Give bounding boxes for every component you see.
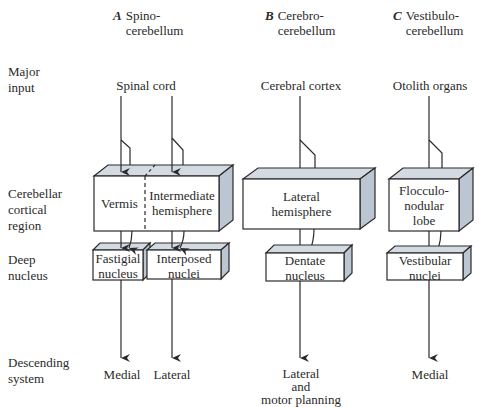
column-header-b: BCerebro-cerebellum <box>265 8 335 38</box>
label-intermediate-hemisphere: Intermediate hemisphere <box>145 188 219 218</box>
input-label-cerebral-cortex: Cerebral cortex <box>261 78 341 94</box>
output-label-lateral-motor-planning: Lateral and motor planning <box>261 367 341 406</box>
box-label-line: nuclei <box>168 266 200 281</box>
column-title-a-line2: cerebellum <box>126 23 184 38</box>
label-fastigial-nucleus: Fastigial nucleus <box>93 251 143 281</box>
row-label-descending-system: Descending system <box>8 355 69 387</box>
arrows-output-a <box>121 279 172 358</box>
box-label-line: Vermis <box>101 196 138 211</box>
label-lateral-hemisphere: Lateral hemisphere <box>243 189 360 219</box>
label-vermis: Vermis <box>94 196 145 211</box>
row-label-line: nucleus <box>8 268 48 283</box>
row-label-line: cortical <box>8 202 47 217</box>
box-label-line: Fastigial <box>96 251 141 266</box>
output-label-medial-a: Medial <box>104 367 141 383</box>
column-header-c: CVestibulo-cerebellum <box>393 8 463 38</box>
box-label-line: lobe <box>413 213 435 228</box>
input-label-otolith-organs: Otolith organs <box>393 78 468 94</box>
input-label-spinal-cord: Spinal cord <box>116 78 176 94</box>
output-label-line: motor planning <box>261 392 341 407</box>
label-vestibular-nuclei: Vestibular nuclei <box>387 253 463 283</box>
column-header-a: ASpino-cerebellum <box>113 8 183 38</box>
box-label-line: hemisphere <box>152 203 212 218</box>
arrows-input-a <box>121 96 183 172</box>
box-label-line: nucleus <box>98 266 138 281</box>
column-title-a-line1: Spino- <box>126 8 161 23</box>
box-label-line: Lateral <box>283 189 320 204</box>
label-dentate-nucleus: Dentate nucleus <box>266 253 344 283</box>
output-label-lateral-a: Lateral <box>154 367 191 383</box>
column-title-c-line2: cerebellum <box>406 23 464 38</box>
box-label-line: hemisphere <box>272 204 332 219</box>
box-label-line: Vestibular <box>399 253 452 268</box>
column-letter-c: C <box>393 8 402 23</box>
box-label-line: Dentate <box>285 253 325 268</box>
column-letter-b: B <box>265 8 274 23</box>
row-label-line: input <box>8 80 35 95</box>
row-label-cortical-region: Cerebellar cortical region <box>8 186 62 234</box>
row-label-line: Descending <box>8 355 69 370</box>
box-label-line: nucleus <box>285 268 325 283</box>
output-label-medial-c: Medial <box>412 367 449 383</box>
arrows-input-c <box>429 96 442 175</box>
row-label-line: Deep <box>8 252 35 267</box>
column-title-c-line1: Vestibulo- <box>406 8 459 23</box>
box-label-line: Flocculo- <box>399 183 449 198</box>
box-label-line: Intermediate <box>149 188 215 203</box>
row-label-line: Cerebellar <box>8 186 62 201</box>
row-label-line: Major <box>8 64 40 79</box>
column-letter-a: A <box>113 8 122 23</box>
column-title-b-line2: cerebellum <box>278 23 336 38</box>
box-label-line: nuclei <box>409 268 441 283</box>
column-title-b-line1: Cerebro- <box>278 8 324 23</box>
row-label-line: region <box>8 218 41 233</box>
row-label-line: system <box>8 371 44 386</box>
label-flocculonodular-lobe: Flocculo- nodular lobe <box>389 183 459 228</box>
label-interposed-nuclei: Interposed nuclei <box>147 251 221 281</box>
box-label-line: Interposed <box>157 251 212 266</box>
box-label-line: nodular <box>404 198 444 213</box>
row-label-deep-nucleus: Deep nucleus <box>8 252 48 284</box>
arrows-input-b <box>300 96 315 175</box>
row-label-major-input: Major input <box>8 64 40 96</box>
